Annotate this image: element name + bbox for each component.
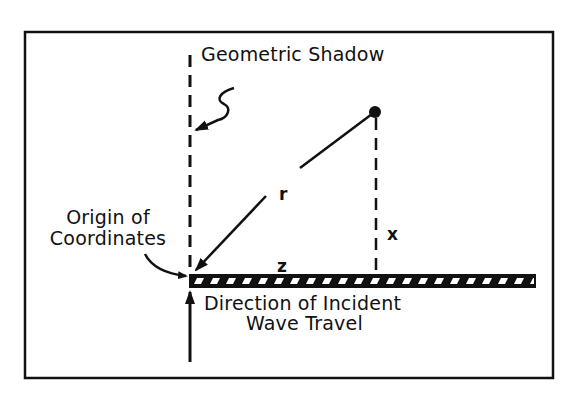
- direction-label-line2: Wave Travel: [246, 313, 363, 333]
- origin-label-line1: Origin of: [38, 207, 178, 227]
- geometric-shadow-label: Geometric Shadow: [201, 44, 384, 64]
- x-label: x: [387, 225, 398, 243]
- origin-label-line2: Coordinates: [38, 228, 178, 248]
- r-vector-upper: [300, 114, 372, 168]
- geometric-shadow-leader-arrow: [196, 88, 234, 130]
- z-label: z: [277, 257, 287, 275]
- diffraction-diagram: Geometric Shadow Origin of Coordinates D…: [0, 0, 572, 408]
- r-vector-lower: [196, 196, 266, 270]
- r-label: r: [279, 185, 287, 203]
- origin-leader-arrow: [145, 254, 186, 276]
- direction-label-line1: Direction of Incident: [204, 293, 401, 313]
- observation-point: [369, 106, 381, 118]
- diffracting-screen: [190, 275, 535, 287]
